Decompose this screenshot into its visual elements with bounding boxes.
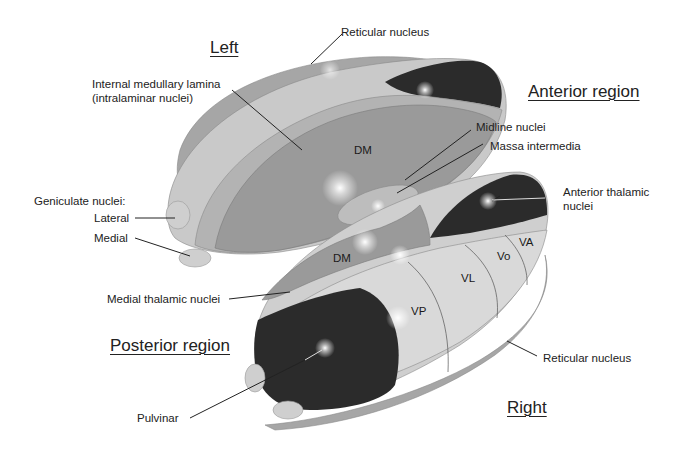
nucleus-vp: VP xyxy=(411,305,426,317)
nucleus-dm-right: DM xyxy=(333,252,351,264)
geniculate-right-2 xyxy=(273,401,303,419)
region-right-title: Right xyxy=(507,398,547,418)
label-pulvinar: Pulvinar xyxy=(137,412,179,425)
label-internal-medullary-lamina: Internal medullary lamina xyxy=(92,78,220,91)
nucleus-vo: Vo xyxy=(497,250,510,262)
label-medial-thalamic-nuclei: Medial thalamic nuclei xyxy=(107,293,220,306)
label-intralaminar-nuclei: (intralaminar nuclei) xyxy=(92,92,193,105)
label-anterior-thalamic-nuclei-2: nuclei xyxy=(563,200,593,213)
lateral-geniculate xyxy=(166,201,190,229)
label-medial-geniculate: Medial xyxy=(94,232,128,245)
label-geniculate-nuclei: Geniculate nuclei: xyxy=(34,195,125,208)
region-posterior-title: Posterior region xyxy=(110,336,230,356)
region-anterior-title: Anterior region xyxy=(528,82,640,102)
thalamus-diagram: Left Anterior region Posterior region Ri… xyxy=(0,0,686,449)
label-anterior-thalamic-nuclei: Anterior thalamic xyxy=(563,186,649,199)
label-massa-intermedia: Massa intermedia xyxy=(490,140,581,153)
label-reticular-nucleus-top: Reticular nucleus xyxy=(341,26,429,39)
label-lateral-geniculate: Lateral xyxy=(94,212,129,225)
label-reticular-nucleus-bottom: Reticular nucleus xyxy=(543,352,631,365)
medial-geniculate xyxy=(179,249,211,267)
geniculate-right-1 xyxy=(245,364,265,392)
nucleus-dm-left: DM xyxy=(354,144,372,156)
nucleus-vl: VL xyxy=(461,272,475,284)
region-left-title: Left xyxy=(210,38,238,58)
nucleus-va: VA xyxy=(519,236,534,248)
label-midline-nuclei: Midline nuclei xyxy=(476,121,546,134)
